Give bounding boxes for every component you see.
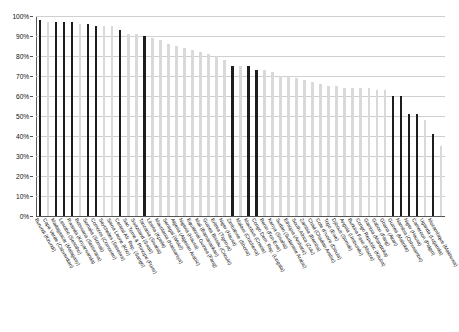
y-axis-tick-mark	[30, 56, 33, 57]
y-axis-tick-label: 30%	[16, 153, 29, 160]
bar	[424, 120, 427, 216]
bar	[95, 26, 98, 216]
y-axis-tick-mark	[30, 176, 33, 177]
bar	[247, 66, 250, 216]
bar	[87, 24, 90, 216]
bar	[311, 82, 314, 216]
bar-series	[36, 16, 445, 216]
bar	[167, 44, 170, 216]
y-axis-tick-label: 100%	[13, 13, 29, 20]
bar	[239, 66, 242, 216]
bar	[159, 40, 162, 216]
x-axis-labels: Burundi (Kirundi)Cape Verde (Cabverdian)…	[36, 217, 451, 332]
y-axis-tick-mark	[30, 156, 33, 157]
bar	[392, 96, 395, 216]
y-axis-tick-label: 90%	[16, 33, 29, 40]
bar	[103, 26, 106, 216]
bar	[111, 26, 114, 216]
bar	[376, 90, 379, 216]
y-axis-labels: 100%90%80%70%60%50%40%30%20%10%0%	[0, 16, 33, 216]
y-axis-tick-mark	[30, 16, 33, 17]
bar	[319, 84, 322, 216]
bar	[71, 22, 74, 216]
y-axis-tick-label: 50%	[16, 113, 29, 120]
bar	[207, 54, 210, 216]
bar	[343, 88, 346, 216]
bar	[183, 48, 186, 216]
bar	[303, 80, 306, 216]
y-axis-tick-mark	[30, 116, 33, 117]
bar	[119, 30, 122, 216]
y-axis-tick-label: 10%	[16, 193, 29, 200]
bar	[63, 22, 66, 216]
y-axis-tick-label: 70%	[16, 73, 29, 80]
bar	[215, 56, 218, 216]
bar	[263, 70, 266, 216]
bar	[400, 96, 403, 216]
bar	[271, 72, 274, 216]
y-axis-tick-label: 0%	[20, 213, 29, 220]
bar	[199, 52, 202, 216]
y-axis-tick-label: 60%	[16, 93, 29, 100]
y-axis-tick-mark	[30, 136, 33, 137]
bar	[47, 22, 50, 216]
bar	[135, 34, 138, 216]
bar	[287, 76, 290, 216]
bar	[143, 36, 146, 216]
bar	[351, 88, 354, 216]
plot-area	[36, 16, 445, 216]
y-axis-tick-mark	[30, 76, 33, 77]
bar	[39, 20, 42, 216]
bar	[408, 114, 411, 216]
bar	[327, 86, 330, 216]
bar	[384, 90, 387, 216]
bar	[279, 76, 282, 216]
y-axis-tick-mark	[30, 36, 33, 37]
bar	[55, 22, 58, 216]
bar	[335, 86, 338, 216]
bar	[191, 50, 194, 216]
bar	[231, 66, 234, 216]
y-axis-tick-label: 80%	[16, 53, 29, 60]
bar	[127, 34, 130, 216]
bar	[359, 88, 362, 216]
bar	[295, 78, 298, 216]
bar	[255, 70, 258, 216]
y-axis-tick-mark	[30, 96, 33, 97]
bar	[416, 114, 419, 216]
y-axis-tick-mark	[30, 196, 33, 197]
y-axis-tick-label: 20%	[16, 173, 29, 180]
y-axis-tick-mark	[30, 216, 33, 217]
y-axis-tick-label: 40%	[16, 133, 29, 140]
bar	[432, 134, 435, 216]
bar	[151, 38, 154, 216]
bar	[223, 60, 226, 216]
bar	[440, 146, 443, 216]
bar	[175, 46, 178, 216]
bar	[368, 88, 371, 216]
bar	[79, 24, 82, 216]
